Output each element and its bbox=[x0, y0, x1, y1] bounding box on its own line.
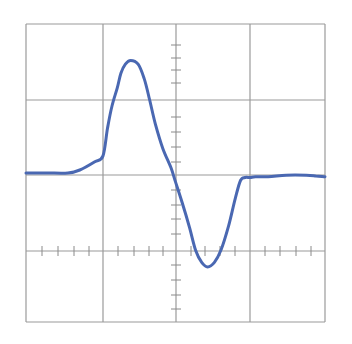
oscilloscope-chart bbox=[0, 0, 352, 344]
